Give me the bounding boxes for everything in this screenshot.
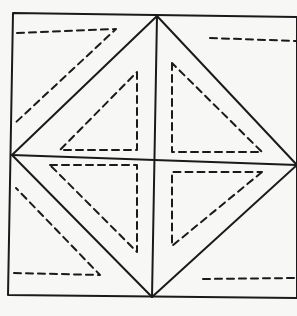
dashed-triangle-bottom-right-corner (203, 200, 297, 279)
diagram-canvas: Hand-drawn square with inscribed diamond… (0, 0, 297, 316)
dashed-triangle-upper-right-inner (172, 63, 262, 152)
diagram-svg (0, 0, 297, 316)
dashed-triangle-top-right-corner (210, 38, 297, 130)
dashed-triangle-top-left-corner (14, 29, 116, 124)
dashed-triangle-upper-left-inner (60, 72, 137, 150)
vertical-midline (152, 16, 157, 297)
